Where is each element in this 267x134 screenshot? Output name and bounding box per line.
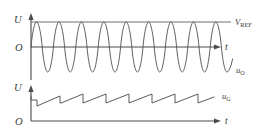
top-chart: U O t VREF uO (14, 13, 252, 80)
top-x-axis-label: t (225, 42, 228, 52)
top-y-axis-label: U (14, 14, 23, 25)
bottom-origin-label: O (15, 116, 23, 127)
uo-label: uO (236, 65, 245, 76)
bottom-x-axis-arrow (214, 118, 221, 123)
ug-label: uG (222, 91, 231, 102)
bottom-y-axis-label: U (14, 82, 23, 93)
top-y-axis-arrow (28, 13, 33, 20)
waveform-figure: U O t VREF uO U O t uG (0, 0, 267, 134)
bottom-y-axis-arrow (28, 85, 33, 92)
bottom-chart: U O t uG (14, 82, 231, 127)
top-x-axis-arrow (214, 44, 221, 49)
top-origin-label: O (15, 42, 23, 53)
bottom-x-axis-label: t (225, 116, 228, 126)
ug-sawtooth-waveform (31, 94, 214, 106)
vref-label: VREF (235, 17, 252, 28)
